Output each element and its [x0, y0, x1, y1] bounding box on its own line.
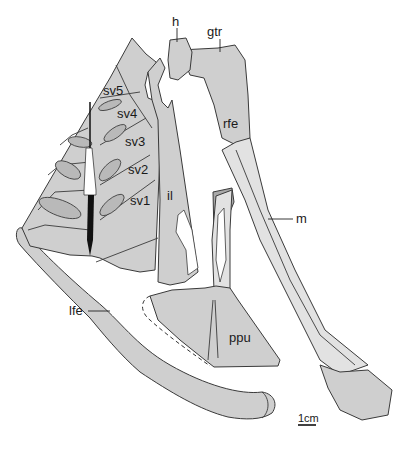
label-il: il — [167, 188, 173, 203]
synsacrum — [22, 38, 162, 272]
right-femur — [168, 38, 392, 420]
label-h: h — [172, 14, 179, 29]
pelvis-femur-illustration: h gtr sv5 sv4 sv3 sv2 sv1 il rfe m lfe p… — [0, 0, 411, 461]
label-sv2: sv2 — [128, 162, 148, 177]
label-sv4: sv4 — [117, 106, 137, 121]
label-lfe: lfe — [69, 303, 83, 318]
label-rfe: rfe — [223, 116, 238, 131]
scale-bar-label: 1cm — [298, 412, 319, 424]
label-sv1: sv1 — [130, 193, 150, 208]
label-sv5: sv5 — [103, 83, 123, 98]
label-ppu: ppu — [229, 330, 251, 345]
label-m: m — [296, 211, 307, 226]
puboischiadic-plate — [143, 286, 281, 367]
label-sv3: sv3 — [125, 134, 145, 149]
scale-bar: 1cm — [298, 412, 319, 425]
label-gtr: gtr — [207, 24, 223, 39]
pubis-region — [212, 188, 234, 292]
